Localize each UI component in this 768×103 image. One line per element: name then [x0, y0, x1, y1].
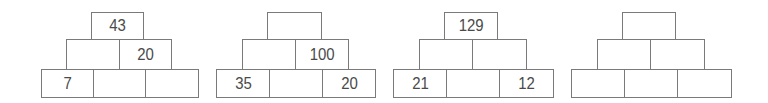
pyramid-cell-middle-2: [650, 39, 705, 70]
pyramid-cell-middle-1: [597, 39, 651, 70]
pyramid-cell-bottom-1: [571, 69, 625, 98]
pyramid-cell-top-1: [622, 12, 676, 40]
number-pyramid-4: [0, 0, 768, 103]
pyramid-cell-bottom-2: [624, 69, 678, 98]
pyramid-cell-bottom-3: [677, 69, 732, 98]
